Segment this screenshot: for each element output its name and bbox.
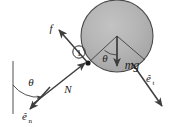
weight-label: mg xyxy=(125,58,140,72)
normal-label: N xyxy=(63,83,72,95)
unit-vector-tangent-subscript: t xyxy=(153,79,155,87)
contact-point-dot xyxy=(85,60,90,65)
unit-vector-normal-arrow xyxy=(30,87,50,109)
friction-label: f xyxy=(49,22,54,34)
unit-vector-normal-label: ê xyxy=(22,110,27,122)
unit-vector-normal-subscript: n xyxy=(29,117,33,125)
diagram-canvas: 1 f N mg θ θ ê n ê t xyxy=(0,0,172,127)
marker-label: 1 xyxy=(77,48,82,58)
unit-vector-tangent-label: ê xyxy=(146,72,151,84)
theta-ball-label: θ xyxy=(102,52,108,64)
theta-incline-label: θ xyxy=(28,76,34,88)
physics-diagram-figure: 1 f N mg θ θ ê n ê t xyxy=(0,0,172,127)
incline-angle-arc xyxy=(13,85,41,97)
